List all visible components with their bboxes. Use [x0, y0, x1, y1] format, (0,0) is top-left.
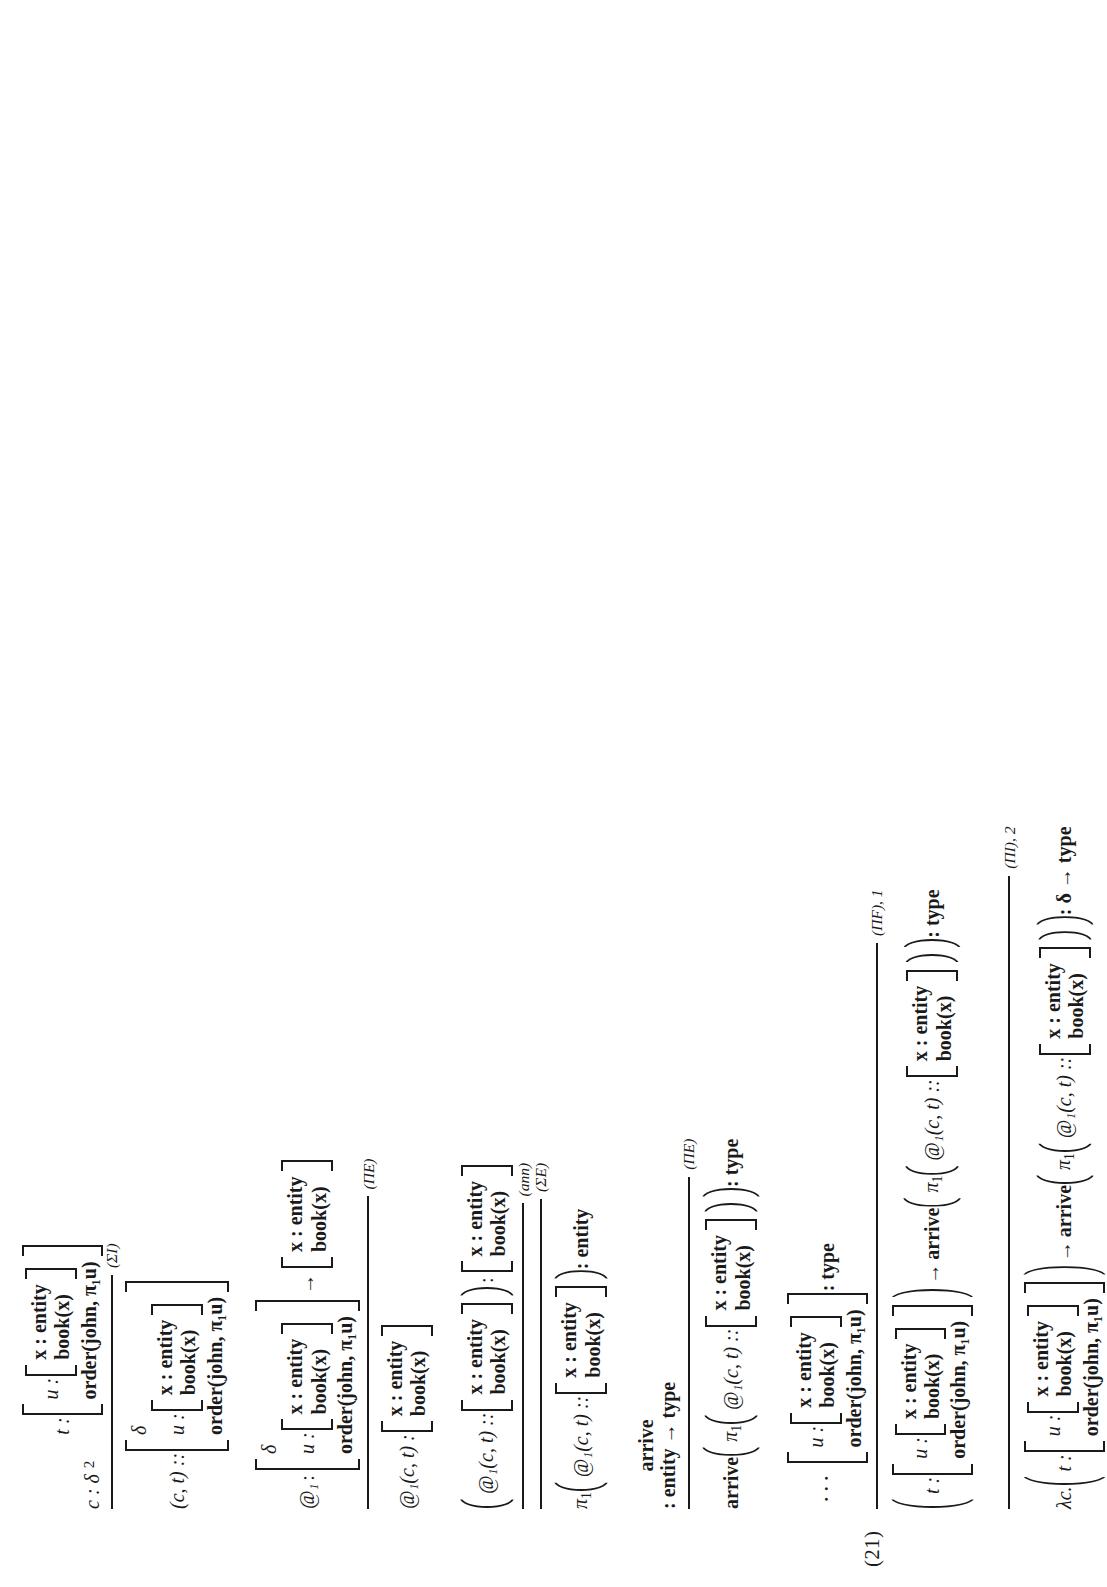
paren-right-icon: [904, 954, 960, 965]
arrive-head: arrive: [720, 1457, 742, 1509]
bracket-right: [151, 1304, 203, 1315]
record-arrive-arg-2: x : entity book(x): [906, 970, 958, 1078]
u-label: u :: [909, 1437, 931, 1459]
record-dots: u : x : entity book(x): [787, 1293, 868, 1463]
rule-label-pi-form: (ΠF), 1: [868, 889, 885, 943]
pi1-symbol: π1: [719, 1425, 744, 1442]
bracket-left: [1024, 1441, 1105, 1452]
premises-pi-form: ⋅⋅⋅ u : x : entity book(x): [787, 889, 868, 1509]
rule-bar-sigma-elim: (ΣE): [532, 1163, 549, 1509]
bracket-left: [25, 1365, 77, 1376]
bracket-left: [892, 1464, 973, 1475]
record-annotation: x : entity book(x): [461, 1303, 513, 1411]
field-x-entity: x : entity: [284, 1176, 306, 1252]
conclusion-pi-form: t : u : x : entity: [886, 889, 975, 1509]
bracket-right: [906, 970, 958, 981]
field-order: order(john, π₁u): [334, 1316, 356, 1454]
record-inner-4: x : entity book(x): [790, 1316, 842, 1424]
paren-right-icon: [553, 1270, 609, 1281]
bracket-right: [125, 1281, 230, 1292]
rule-bar-pi-elim-at: (ΠE): [360, 1158, 377, 1509]
field-u-3: u : x : entity book(x): [281, 1316, 333, 1454]
at-annotated: @₁(c, t) ::: [720, 1329, 742, 1410]
annotated-term: @₁(c, t) :: x : entity book(x): [459, 1163, 515, 1509]
premises-pi-elim-at: @₁ : δ u : x : entity: [255, 1158, 360, 1509]
field-book: book(x): [732, 1235, 754, 1311]
paren-right-icon: [902, 939, 962, 950]
field-u-6: u : x : entity book(x): [1027, 1298, 1079, 1436]
discharge-marker-2: 2: [81, 1461, 98, 1475]
bracket-left: [1039, 1044, 1091, 1055]
field-order: order(john, π₁u): [204, 1297, 226, 1435]
paren-left-icon: [553, 1480, 609, 1491]
field-x-entity: x : entity: [898, 1344, 920, 1420]
field-x-entity: x : entity: [28, 1284, 50, 1360]
paren-group-pi1-inner-3: @₁(c, t) :: x : entity book(x): [1037, 931, 1093, 1152]
bracket-left: [281, 1419, 333, 1430]
pi1-symbol: π1: [569, 1492, 594, 1509]
field-book: book(x): [1053, 1321, 1075, 1397]
conclusion-arrive-type: arrive π1 @₁(c, t) :: x: [697, 1139, 761, 1509]
bracket-right: [461, 1165, 513, 1176]
paren-group-arrive-2: π1 @₁(c, t) :: x : entity book(x): [902, 939, 962, 1207]
paren-left-icon: [1035, 1173, 1095, 1184]
step-pi-intro: (ΠI), 2 λc. t : u :: [1001, 826, 1107, 1509]
record-arrive-arg: x : entity book(x): [705, 1219, 757, 1327]
pi1-symbol: π1: [920, 1176, 945, 1193]
final-type: : δ → type: [1053, 826, 1075, 915]
step-sigma-intro: c : δ 2 t : u :: [22, 1243, 229, 1509]
bracket-left: [381, 1421, 433, 1432]
arrive-signature: : entity → type: [657, 1382, 679, 1509]
bracket-left: [705, 1316, 757, 1327]
paren-group-piform: t : u : x : entity: [890, 1289, 975, 1508]
conclusion-pair: (c, t) :: δ u : x : entity book(x): [121, 1279, 230, 1509]
step-pi-elim-arrive: arrive : entity → type (ΠE) arrive π1: [635, 1139, 761, 1509]
field-book: book(x): [51, 1284, 73, 1360]
bracket-left: [281, 1257, 333, 1268]
at-operator-typing: @₁ : δ u : x : entity: [255, 1158, 360, 1509]
arrive-label: arrive: [635, 1419, 657, 1471]
record-outer-2: δ u : x : entity book(x): [125, 1281, 230, 1451]
field-u-4: u : x : entity book(x): [790, 1309, 842, 1447]
u-label: u :: [805, 1426, 827, 1448]
rule-label-sigma-elim: (ΣE): [532, 1163, 549, 1199]
field-u: u : x : entity book(x): [25, 1261, 77, 1399]
record-inner-2: x : entity book(x): [151, 1304, 203, 1412]
field-book: book(x): [308, 1176, 330, 1252]
rule-bar-pi-intro: (ΠI), 2: [1001, 826, 1018, 1509]
t-label: t :: [921, 1477, 943, 1494]
field-delta: δ: [258, 1316, 280, 1454]
u-label: u :: [296, 1432, 318, 1454]
bracket-left: [1027, 1402, 1079, 1413]
paren-left-icon: [1037, 1141, 1093, 1152]
u-label: u :: [1042, 1415, 1064, 1437]
field-order: order(john, π₁u): [843, 1309, 865, 1447]
bracket-right: [255, 1300, 360, 1311]
pi1-entity-type: : entity: [570, 1209, 592, 1270]
record-ann-type: x : entity book(x): [461, 1165, 513, 1273]
bracket-left: [22, 1404, 103, 1415]
field-book: book(x): [933, 986, 955, 1062]
record-inner-6: x : entity book(x): [1027, 1305, 1079, 1413]
bracket-right: [25, 1268, 77, 1279]
field-book: book(x): [177, 1320, 199, 1396]
paren-left-icon: [703, 1413, 759, 1424]
arrive-head: arrive: [921, 1208, 943, 1260]
bracket-right: [1039, 947, 1091, 958]
bracket-right: [22, 1245, 103, 1256]
bracket-left: [895, 1424, 947, 1435]
paren-left-icon: [902, 1196, 962, 1207]
arrow-icon: →: [921, 1260, 943, 1288]
bracket-right: [555, 1286, 607, 1297]
field-book: book(x): [582, 1302, 604, 1378]
bracket-left: [555, 1383, 607, 1394]
field-book: book(x): [816, 1332, 838, 1408]
field-book: book(x): [921, 1344, 943, 1420]
field-u-5: u : x : entity book(x): [895, 1321, 947, 1459]
t-label: t :: [51, 1417, 73, 1434]
at-annotated: @₁(c, t) ::: [921, 1079, 943, 1160]
paren-group-ann: @₁(c, t) :: x : entity book(x): [459, 1287, 515, 1508]
hypothesis-c-delta: c : δ 2: [76, 1461, 103, 1509]
field-x-entity: x : entity: [464, 1181, 486, 1257]
